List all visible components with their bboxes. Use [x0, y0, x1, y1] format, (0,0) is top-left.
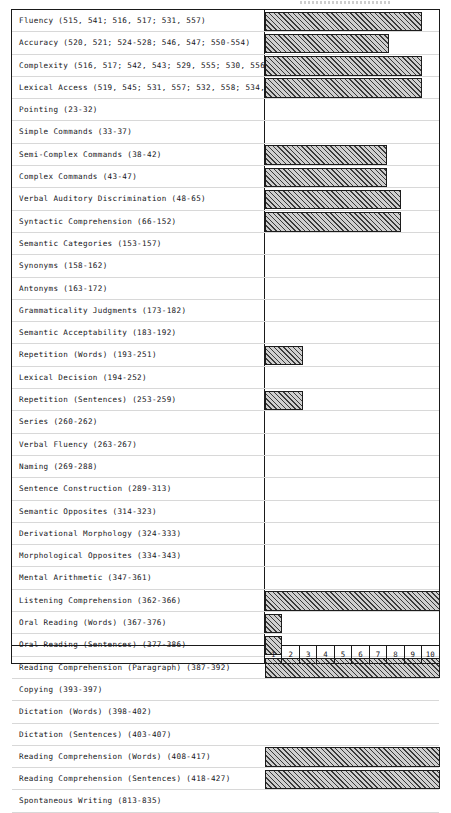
bar	[265, 145, 387, 165]
axis-tick-10: 10	[421, 646, 438, 664]
row-label: Semantic Categories (153-157)	[19, 233, 162, 255]
chart-rows: Fluency (515, 541; 516, 517; 531, 557)Ac…	[12, 10, 439, 813]
row-label: Sentence Construction (289-313)	[19, 478, 172, 500]
chart-row: Oral Reading (Words) (367-376)	[12, 612, 439, 634]
axis-tick-7: 7	[369, 646, 386, 664]
row-label: Repetition (Words) (193-251)	[19, 344, 157, 366]
chart-row: Reading Comprehension (Sentences) (418-4…	[12, 768, 439, 790]
chart-row: Antonyms (163-172)	[12, 278, 439, 300]
bar	[265, 78, 422, 98]
chart-row: Naming (269-288)	[12, 456, 439, 478]
row-label: Morphological Opposites (334-343)	[19, 545, 181, 567]
row-label: Copying (393-397)	[19, 679, 103, 701]
row-label: Fluency (515, 541; 516, 517; 531, 557)	[19, 10, 206, 32]
row-label: Reading Comprehension (Sentences) (418-4…	[19, 768, 231, 790]
row-label: Reading Comprehension (Paragraph) (387-3…	[19, 657, 231, 679]
row-label: Oral Reading (Words) (367-376)	[19, 612, 167, 634]
row-label: Verbal Fluency (263-267)	[19, 434, 137, 456]
row-label: Naming (269-288)	[19, 456, 98, 478]
row-label: Grammaticality Judgments (173-182)	[19, 300, 186, 322]
row-label: Synonyms (158-162)	[19, 255, 108, 277]
chart-row: Pointing (23-32)	[12, 99, 439, 121]
axis-tick-1: 1	[264, 646, 281, 664]
chart-row: Semantic Opposites (314-323)	[12, 501, 439, 523]
chart-row: Derivational Morphology (324-333)	[12, 523, 439, 545]
row-label: Dictation (Words) (398-402)	[19, 701, 152, 723]
row-label: Oral Reading (Sentences) (377-386)	[19, 634, 186, 656]
chart-row: Series (260-262)	[12, 411, 439, 433]
chart-row: Dictation (Sentences) (403-407)	[12, 724, 439, 746]
row-label: Dictation (Sentences) (403-407)	[19, 724, 172, 746]
row-label: Verbal Auditory Discrimination (48-65)	[19, 188, 206, 210]
chart-row: Verbal Auditory Discrimination (48-65)	[12, 188, 439, 210]
row-label: Syntactic Comprehension (66-152)	[19, 211, 177, 233]
row-label: Series (260-262)	[19, 411, 98, 433]
row-label: Reading Comprehension (Words) (408-417)	[19, 746, 211, 768]
bar	[265, 391, 303, 411]
chart-row: Mental Arithmetic (347-361)	[12, 567, 439, 589]
axis-end-border	[439, 646, 440, 664]
row-label: Listening Comprehension (362-366)	[19, 590, 181, 612]
chart-row: Morphological Opposites (334-343)	[12, 545, 439, 567]
row-label: Derivational Morphology (324-333)	[19, 523, 181, 545]
bar	[265, 614, 282, 634]
axis-tick-2: 2	[281, 646, 298, 664]
chart-row: Lexical Access (519, 545; 531, 557; 532,…	[12, 77, 439, 99]
bar	[265, 12, 422, 32]
row-label: Repetition (Sentences) (253-259)	[19, 389, 177, 411]
row-label: Pointing (23-32)	[19, 99, 98, 121]
chart-row: Listening Comprehension (362-366)	[12, 590, 439, 612]
axis-tick-4: 4	[316, 646, 333, 664]
axis-tick-6: 6	[351, 646, 368, 664]
axis-tick-8: 8	[386, 646, 403, 664]
bar	[265, 346, 303, 366]
axis-tick-5: 5	[334, 646, 351, 664]
row-label: Semi-Complex Commands (38-42)	[19, 144, 162, 166]
row-label: Antonyms (163-172)	[19, 278, 108, 300]
chart-row: Accuracy (520, 521; 524-528; 546, 547; 5…	[12, 32, 439, 54]
chart-row: Dictation (Words) (398-402)	[12, 701, 439, 723]
row-label: Complex Commands (43-47)	[19, 166, 137, 188]
bar	[265, 747, 440, 767]
row-label: Semantic Acceptability (183-192)	[19, 322, 177, 344]
chart-row: Lexical Decision (194-252)	[12, 367, 439, 389]
chart-row: Semi-Complex Commands (38-42)	[12, 144, 439, 166]
chart-row: Semantic Categories (153-157)	[12, 233, 439, 255]
row-label: Complexity (516, 517; 542, 543; 529, 555…	[19, 55, 270, 77]
row-label: Lexical Access (519, 545; 531, 557; 532,…	[19, 77, 290, 99]
chart-row: Complex Commands (43-47)	[12, 166, 439, 188]
chart-row: Synonyms (158-162)	[12, 255, 439, 277]
bar	[265, 770, 440, 790]
chart-row: Reading Comprehension (Words) (408-417)	[12, 746, 439, 768]
bar	[265, 56, 422, 76]
row-label: Mental Arithmetic (347-361)	[19, 567, 152, 589]
chart-row: Verbal Fluency (263-267)	[12, 434, 439, 456]
chart-row: Sentence Construction (289-313)	[12, 478, 439, 500]
chart-row: Simple Commands (33-37)	[12, 121, 439, 143]
axis-bottom-rule	[11, 663, 440, 664]
bar	[265, 190, 401, 210]
row-label: Spontaneous Writing (813-835)	[19, 790, 162, 812]
chart-row: Semantic Acceptability (183-192)	[12, 322, 439, 344]
bar	[265, 34, 389, 54]
chart-row: Fluency (515, 541; 516, 517; 531, 557)	[12, 10, 439, 32]
axis-tick-9: 9	[404, 646, 421, 664]
bar	[265, 591, 440, 611]
row-label: Simple Commands (33-37)	[19, 121, 132, 143]
chart-row: Spontaneous Writing (813-835)	[12, 790, 439, 812]
row-label: Semantic Opposites (314-323)	[19, 501, 157, 523]
chart-row: Repetition (Sentences) (253-259)	[12, 389, 439, 411]
top-edge-artifact	[300, 1, 390, 4]
chart-row: Syntactic Comprehension (66-152)	[12, 211, 439, 233]
bar	[265, 212, 401, 232]
bar	[265, 168, 387, 188]
chart-row: Grammaticality Judgments (173-182)	[12, 300, 439, 322]
chart-row: Complexity (516, 517; 542, 543; 529, 555…	[12, 55, 439, 77]
axis-tick-3: 3	[299, 646, 316, 664]
plot-right-border	[439, 9, 440, 646]
chart-row: Copying (393-397)	[12, 679, 439, 701]
row-label: Accuracy (520, 521; 524-528; 546, 547; 5…	[19, 32, 250, 54]
chart-row: Repetition (Words) (193-251)	[12, 344, 439, 366]
x-axis-scale: 12345678910	[264, 646, 440, 664]
